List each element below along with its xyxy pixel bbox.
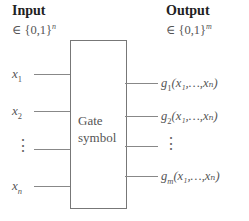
- input-wire-dots: [34, 149, 70, 150]
- output-domain: ∈ {0,1}m: [166, 22, 212, 38]
- input-label-x2: x2: [12, 103, 22, 121]
- output-domain-base: ∈ {0,1}: [166, 23, 206, 37]
- input-vdots-glyph: ⋮: [15, 137, 31, 154]
- input-header: Input: [12, 3, 45, 19]
- output-wire-2: [125, 116, 158, 117]
- output-wire-1: [125, 83, 158, 84]
- input-domain: ∈ {0,1}n: [12, 22, 56, 38]
- input-var-sub: n: [18, 186, 22, 196]
- input-label-xn: xn: [12, 178, 22, 196]
- output-vdots-glyph: ⋮: [163, 135, 179, 152]
- output-fn-args: (x₁,…,xₙ): [172, 76, 218, 90]
- output-header: Output: [166, 3, 210, 19]
- output-fn-args: (x₁,…,xₙ): [172, 109, 218, 123]
- output-label-gm: gm(x₁,…,xₙ): [161, 168, 220, 186]
- output-label-g1: g1(x₁,…,xₙ): [161, 75, 218, 93]
- input-wire-1: [34, 74, 70, 75]
- input-label-x1: x1: [12, 66, 22, 84]
- gate-label-line1: Gate: [78, 112, 116, 129]
- output-wire-dots: [125, 146, 158, 147]
- input-domain-exponent: n: [52, 22, 56, 31]
- input-var-sub: 2: [18, 111, 22, 121]
- output-domain-exponent: m: [206, 22, 212, 31]
- input-var-sub: 1: [18, 74, 22, 84]
- input-domain-base: ∈ {0,1}: [12, 23, 52, 37]
- input-label-vdots: ⋮: [15, 138, 31, 154]
- output-label-g2: g2(x₁,…,xₙ): [161, 108, 218, 126]
- gate-label-line2: symbol: [78, 129, 116, 146]
- output-wire-m: [125, 176, 158, 177]
- input-wire-n: [34, 186, 70, 187]
- output-fn-args: (x₁,…,xₙ): [173, 169, 219, 183]
- input-wire-2: [34, 111, 70, 112]
- gate-label: Gate symbol: [78, 112, 116, 146]
- output-label-vdots: ⋮: [163, 136, 179, 152]
